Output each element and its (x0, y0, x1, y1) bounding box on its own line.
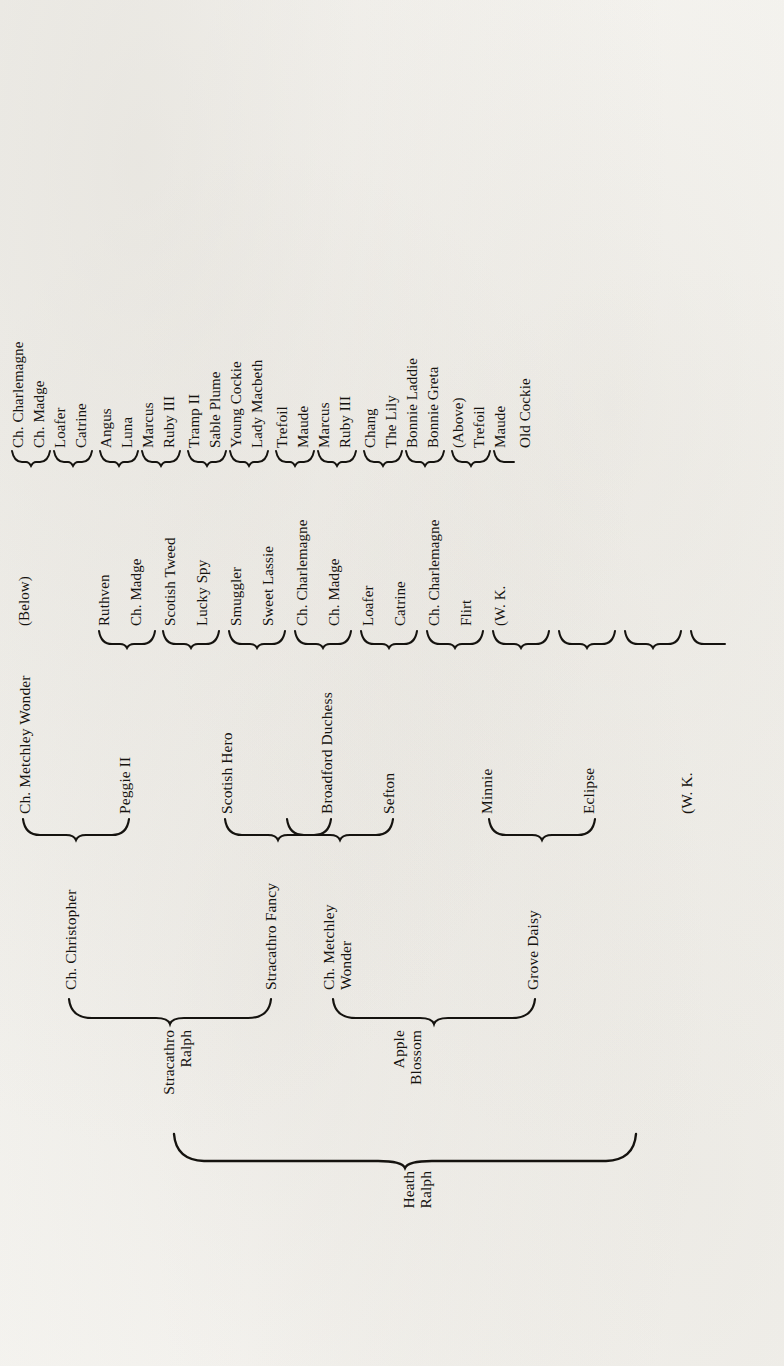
pedigree-node-root: Heath Ralph (400, 1171, 435, 1261)
brace-g4-4 (186, 448, 228, 468)
pedigree-node-g3-0: Ch. Metchley Wonder (16, 646, 33, 814)
pedigree-node-g5-5: Luna (119, 258, 136, 448)
brace-g3-9 (688, 628, 728, 650)
brace-g3-8 (622, 628, 684, 650)
pedigree-node-g5-2: Loafer (52, 258, 69, 448)
pedigree-node-g2-0: Ch. Christopher (62, 840, 79, 990)
brace-g4-2 (98, 448, 140, 468)
brace-g2-2 (284, 816, 396, 842)
pedigree-node-g1-1: Apple Blossom (390, 1030, 425, 1126)
pedigree-node-g3-2: Scotish Hero (218, 646, 235, 814)
brace-g4-5 (228, 448, 270, 468)
pedigree-node-g3-5: Minnie (478, 646, 495, 814)
pedigree-node-g5-18: Bonnie Laddie (404, 258, 421, 448)
pedigree-node-g5-6: Marcus (140, 258, 157, 448)
brace-g4-6 (274, 448, 316, 468)
pedigree-node-g2-1: Stracathro Fancy (262, 840, 279, 990)
pedigree-node-g3-1: Peggie II (116, 646, 133, 814)
pedigree-node-g5-17: The Lily (383, 258, 400, 448)
brace-g1-0 (66, 996, 276, 1026)
pedigree-node-g3-3: Broadford Duchess (318, 646, 335, 814)
brace-g1-1 (330, 996, 540, 1026)
brace-g4-10 (450, 448, 492, 468)
pedigree-node-g4-2: Ch. Madge (128, 466, 145, 626)
pedigree-node-g5-20: (Above) (450, 258, 467, 448)
pedigree-node-g5-10: Young Cockie (228, 258, 245, 448)
pedigree-node-g5-14: Marcus (316, 258, 333, 448)
pedigree-node-g5-7: Ruby III (161, 258, 178, 448)
brace-g3-7 (556, 628, 618, 650)
pedigree-node-g5-23: Old Cockie (517, 258, 534, 448)
pedigree-node-g1-0: Stracathro Ralph (160, 1030, 195, 1126)
pedigree-node-g5-13: Maude (295, 258, 312, 448)
brace-g3-4 (358, 628, 420, 650)
brace-g3-3 (292, 628, 354, 650)
pedigree-node-g4-5: Smuggler (228, 466, 245, 626)
brace-g3-2 (226, 628, 288, 650)
pedigree-node-g4-12: Flirt (458, 466, 475, 626)
brace-g3-5 (424, 628, 486, 650)
scanned-pedigree-page: Heath Ralph Stracathro Ralph Apple Bloss… (0, 0, 784, 1366)
pedigree-node-g4-13: (W. K. (492, 466, 509, 626)
brace-g4-11 (492, 448, 516, 468)
pedigree-node-g5-4: Angus (98, 258, 115, 448)
pedigree-node-g2-3: Grove Daisy (524, 840, 541, 990)
brace-g3-1 (96, 628, 158, 650)
pedigree-node-g3-6: Eclipse (580, 646, 597, 814)
pedigree-node-g4-3: Scotish Tweed (162, 466, 179, 626)
brace-g3-1b (160, 628, 222, 650)
brace-g3-6 (490, 628, 552, 650)
pedigree-node-g5-15: Ruby III (337, 258, 354, 448)
pedigree-node-g5-8: Tramp II (186, 258, 203, 448)
pedigree-node-g4-9: Loafer (360, 466, 377, 626)
pedigree-node-g4-6: Sweet Lassie (260, 466, 277, 626)
pedigree-node-g4-4: Lucky Spy (194, 466, 211, 626)
brace-g4-7 (316, 448, 358, 468)
pedigree-node-g5-12: Trefoil (274, 258, 291, 448)
brace-g4-0 (10, 448, 52, 468)
pedigree-node-g5-19: Bonnie Greta (425, 258, 442, 448)
brace-g4-1 (52, 448, 94, 468)
brace-g4-8 (362, 448, 404, 468)
pedigree-node-g2-2: Ch. Metchley Wonder (320, 840, 355, 990)
brace-g4-9 (404, 448, 446, 468)
pedigree-node-g4-1: Ruthven (96, 466, 113, 626)
pedigree-node-g4-11: Ch. Charlemagne (426, 466, 443, 626)
pedigree-node-g5-16: Chang (362, 258, 379, 448)
pedigree-node-g4-7: Ch. Charlemagne (294, 466, 311, 626)
pedigree-node-g4-10: Catrine (392, 466, 409, 626)
brace-g4-3 (140, 448, 182, 468)
pedigree-node-g5-9: Sable Plume (207, 258, 224, 448)
pedigree-node-g3-7: (W. K. (678, 646, 695, 814)
pedigree-node-g5-22: Maude (492, 258, 509, 448)
pedigree-node-g3-4: Sefton (380, 646, 397, 814)
pedigree-node-g5-1: Ch. Madge (31, 258, 48, 448)
pedigree-node-g5-0: Ch. Charlemagne (10, 258, 27, 448)
pedigree-chart: Heath Ralph Stracathro Ralph Apple Bloss… (0, 0, 784, 1366)
pedigree-node-g4-0: (Below) (16, 466, 33, 626)
pedigree-node-g5-21: Trefoil (471, 258, 488, 448)
brace-g2-0 (20, 816, 132, 842)
brace-g2-3 (486, 816, 598, 842)
pedigree-node-g5-3: Catrine (73, 258, 90, 448)
pedigree-node-g4-8: Ch. Madge (326, 466, 343, 626)
pedigree-node-g5-11: Lady Macbeth (249, 258, 266, 448)
brace-root (170, 1130, 640, 1170)
